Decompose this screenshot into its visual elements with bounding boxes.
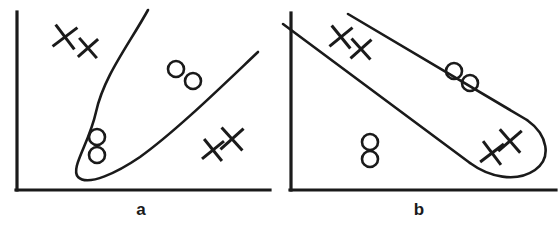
class-x-point: [480, 141, 504, 165]
class-x-point: [329, 25, 352, 48]
panel-b-circle-points: [362, 63, 478, 167]
class-x-point: [498, 129, 521, 152]
panel-b-axes: [290, 13, 556, 190]
panel-a-axes: [16, 12, 270, 190]
panel-b: b: [283, 13, 556, 219]
panel-b-boundary-lower-edge: [283, 24, 470, 163]
class-x-point: [220, 127, 243, 150]
panel-b-boundary-upper-edge: [348, 14, 527, 120]
class-x-point: [53, 25, 78, 50]
panel-a-cluster-boundary: [76, 10, 258, 180]
class-o-point: [89, 147, 105, 163]
panel-a: a: [16, 10, 270, 219]
class-o-point: [168, 61, 184, 77]
class-o-point: [185, 73, 201, 89]
class-x-point: [202, 139, 224, 161]
panel-a-circle-points: [89, 61, 201, 163]
class-x-point: [78, 38, 98, 58]
class-o-point: [362, 134, 378, 150]
panel-a-label: a: [136, 200, 146, 219]
panel-b-cross-points: [329, 25, 521, 164]
class-o-point: [362, 151, 378, 167]
figure-root: a: [0, 0, 559, 231]
panel-b-boundary-tip: [470, 120, 546, 177]
class-o-point: [89, 129, 105, 145]
panel-b-cluster-boundary: [283, 14, 546, 177]
figure-canvas: a: [0, 0, 559, 231]
panel-b-label: b: [414, 200, 424, 219]
class-x-point: [350, 38, 371, 59]
